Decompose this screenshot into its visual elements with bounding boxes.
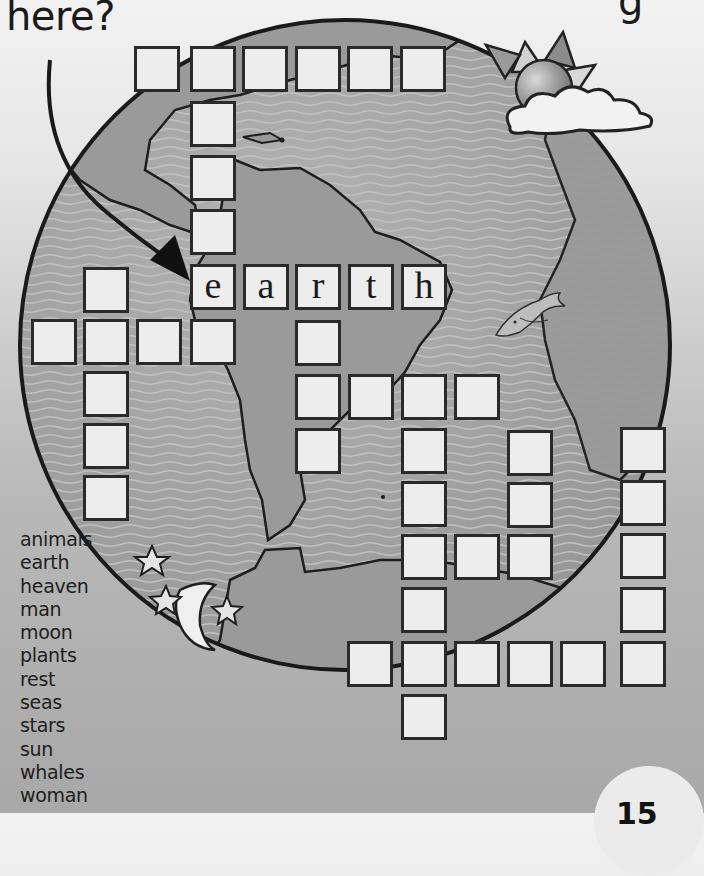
crossword-cell[interactable]	[295, 428, 341, 474]
crossword-cell[interactable]	[242, 46, 288, 92]
crossword-cell[interactable]	[295, 46, 341, 92]
crossword-cell[interactable]	[83, 319, 129, 365]
crossword-cell[interactable]	[190, 319, 236, 365]
crossword-cell[interactable]	[83, 423, 129, 469]
word-bank-item: earth	[20, 551, 92, 574]
crossword-cell-filled[interactable]: t	[348, 264, 394, 310]
crossword-cell[interactable]	[83, 475, 129, 521]
crossword-cell[interactable]	[190, 155, 236, 201]
cut-off-text: g	[618, 0, 643, 24]
page-number-badge: 15	[594, 766, 704, 876]
crossword-cell[interactable]	[401, 694, 447, 740]
crossword-cell[interactable]	[400, 46, 446, 92]
crossword-cell[interactable]	[620, 587, 666, 633]
crossword-cell[interactable]	[31, 319, 77, 365]
crossword-cell[interactable]	[347, 641, 393, 687]
crossword-cell[interactable]	[348, 374, 394, 420]
crossword-cell[interactable]	[620, 427, 666, 473]
crossword-cell[interactable]	[507, 534, 553, 580]
crossword-cell[interactable]	[507, 641, 553, 687]
crossword-cell-filled[interactable]: r	[295, 264, 341, 310]
crossword-cell[interactable]	[507, 482, 553, 528]
crossword-cell[interactable]	[134, 46, 180, 92]
crossword-cell[interactable]	[620, 641, 666, 687]
crossword-cell-filled[interactable]: a	[243, 264, 289, 310]
crossword-cell[interactable]	[190, 46, 236, 92]
question-text: here?	[6, 0, 115, 40]
word-bank-item: moon	[20, 621, 92, 644]
crossword-cell[interactable]	[190, 209, 236, 255]
crossword-cell[interactable]	[454, 374, 500, 420]
crossword-cell[interactable]	[347, 46, 393, 92]
crossword-cell[interactable]	[295, 374, 341, 420]
crossword-cell[interactable]	[401, 534, 447, 580]
word-bank-item: rest	[20, 668, 92, 691]
page-number: 15	[616, 796, 658, 831]
word-bank-item: woman	[20, 784, 92, 807]
word-bank-item: whales	[20, 761, 92, 784]
crossword-cell[interactable]	[401, 428, 447, 474]
crossword-cell[interactable]	[401, 374, 447, 420]
word-bank-item: heaven	[20, 575, 92, 598]
word-bank-item: sun	[20, 738, 92, 761]
crossword-cell-filled[interactable]: e	[190, 264, 236, 310]
word-bank-item: plants	[20, 644, 92, 667]
crossword-cell-filled[interactable]: h	[401, 264, 447, 310]
crossword-cell[interactable]	[190, 101, 236, 147]
crossword-cell[interactable]	[401, 641, 447, 687]
word-bank-item: stars	[20, 714, 92, 737]
crossword-cell[interactable]	[620, 533, 666, 579]
crossword-cell[interactable]	[83, 267, 129, 313]
word-bank: animals earth heaven man moon plants res…	[20, 528, 92, 808]
crossword-cell[interactable]	[560, 641, 606, 687]
word-bank-item: animals	[20, 528, 92, 551]
crossword-cell[interactable]	[507, 430, 553, 476]
crossword-cell[interactable]	[454, 534, 500, 580]
word-bank-item: seas	[20, 691, 92, 714]
crossword-cell[interactable]	[136, 319, 182, 365]
crossword-cell[interactable]	[620, 480, 666, 526]
crossword-cell[interactable]	[401, 587, 447, 633]
crossword-cell[interactable]	[401, 481, 447, 527]
crossword-cell[interactable]	[83, 371, 129, 417]
crossword-cell[interactable]	[295, 320, 341, 366]
word-bank-item: man	[20, 598, 92, 621]
crossword-cell[interactable]	[454, 641, 500, 687]
